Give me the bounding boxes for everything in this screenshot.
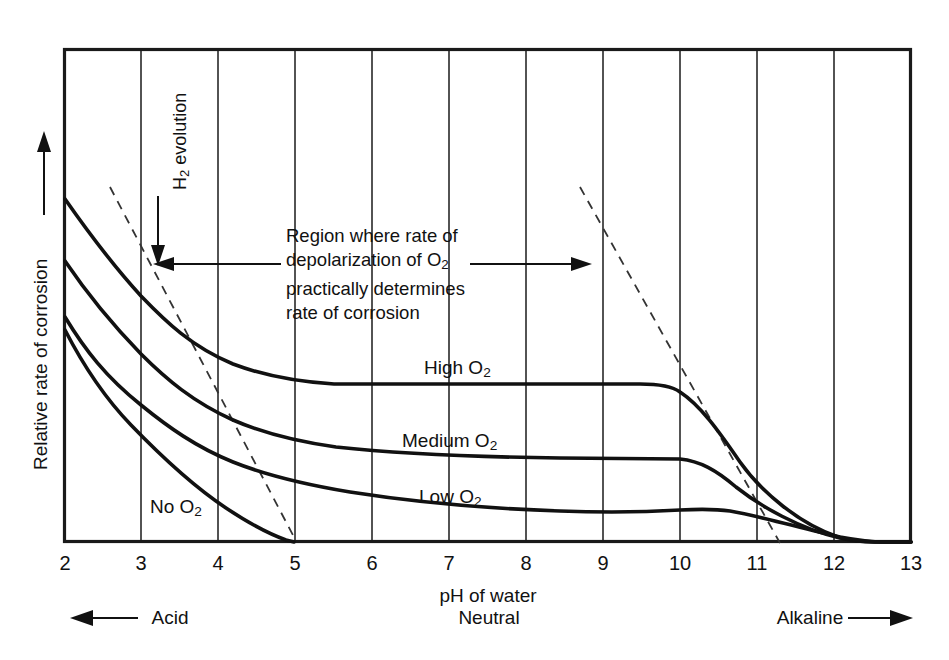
corrosion-rate-vs-ph-figure: 2 3 4 5 6 7 8 9 10 11 12 13 pH of water … — [0, 0, 949, 660]
x-tick-10: 10 — [660, 553, 700, 573]
callout-line-3: practically determines — [286, 277, 465, 301]
dashed-hydrogen-line — [110, 187, 295, 539]
series-label-medium-o2: Medium O2 — [402, 431, 497, 453]
series-label-medium-o2-text: Medium O — [402, 430, 490, 451]
y-axis-direction-arrow — [37, 131, 51, 215]
x-tick-4: 4 — [198, 553, 238, 573]
series-label-low-o2-text: Low O — [419, 486, 474, 507]
x-tick-11: 11 — [737, 553, 777, 573]
series-label-no-o2-sub: 2 — [194, 504, 202, 519]
zone-label-acid: Acid — [70, 608, 270, 627]
x-tick-7: 7 — [429, 553, 469, 573]
x-tick-2: 2 — [45, 553, 85, 573]
x-tick-9: 9 — [583, 553, 623, 573]
h2-evolution-arrow — [151, 196, 165, 266]
callout-line-2-text: depolarization of O — [286, 249, 441, 270]
x-tick-6: 6 — [352, 553, 392, 573]
depolarization-callout: Region where rate of depolarization of O… — [286, 224, 465, 325]
x-tick-12: 12 — [814, 553, 854, 573]
x-tick-5: 5 — [275, 553, 315, 573]
series-label-high-o2-text: High O — [424, 357, 483, 378]
callout-arrow-left — [153, 257, 281, 271]
callout-line-2: depolarization of O2 — [286, 248, 465, 277]
callout-line-1: Region where rate of — [286, 224, 465, 248]
callout-line-4: rate of corrosion — [286, 301, 465, 325]
x-tick-8: 8 — [506, 553, 546, 573]
series-label-high-o2: High O2 — [424, 358, 491, 380]
h2-evolution-label: H2 evolution — [170, 93, 192, 190]
zone-label-neutral: Neutral — [389, 608, 589, 627]
series-label-high-o2-sub: 2 — [483, 365, 491, 380]
x-tick-13: 13 — [891, 553, 931, 573]
series-label-no-o2-text: No O — [150, 496, 194, 517]
h2-evolution-label-sub: 2 — [177, 170, 192, 177]
callout-arrow-right — [470, 257, 592, 271]
series-label-low-o2-sub: 2 — [474, 494, 482, 509]
y-axis-title: Relative rate of corrosion — [30, 259, 52, 470]
h2-evolution-label-text: H — [170, 177, 190, 190]
callout-line-2-sub: 2 — [441, 257, 448, 272]
h2-evolution-label-rest: evolution — [170, 93, 190, 170]
series-label-no-o2: No O2 — [150, 497, 202, 519]
series-label-low-o2: Low O2 — [419, 487, 482, 509]
series-label-medium-o2-sub: 2 — [490, 438, 498, 453]
x-tick-3: 3 — [121, 553, 161, 573]
zone-label-alkaline: Alkaline — [710, 608, 910, 627]
x-axis-title: pH of water — [358, 586, 618, 605]
